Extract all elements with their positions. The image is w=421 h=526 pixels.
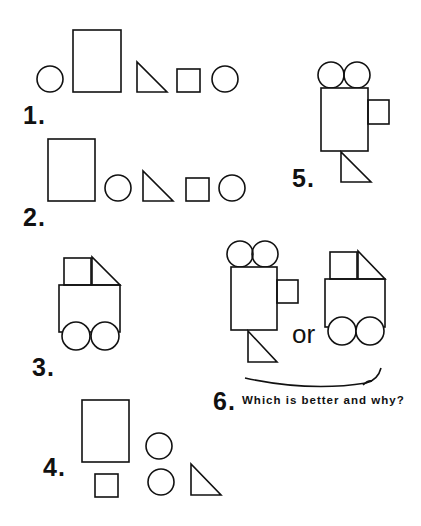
wheel-circle-shape	[62, 322, 90, 350]
question-text: Which is better and why?	[242, 395, 405, 407]
circle-shape	[219, 175, 245, 201]
circle-shape	[37, 66, 63, 92]
side-square-shape	[368, 100, 389, 124]
or-text: or	[292, 321, 315, 347]
figure-2	[48, 139, 245, 201]
body-rectangle-shape	[231, 267, 277, 330]
reel-circle-shape	[252, 241, 278, 267]
wheel-circle-shape	[356, 317, 384, 345]
reel-circle-shape	[227, 241, 253, 267]
cab-triangle-shape	[358, 251, 385, 279]
cab-triangle-shape	[92, 257, 120, 285]
circle-shape	[146, 433, 172, 459]
reel-circle-shape	[318, 62, 344, 88]
figure-label-4: 4.	[43, 455, 66, 480]
triangle-shape	[137, 62, 167, 92]
square-shape	[95, 474, 118, 497]
body-rectangle-shape	[321, 88, 368, 151]
figure-label-6: 6.	[213, 389, 236, 414]
side-square-shape	[277, 280, 298, 303]
figure-label-2: 2.	[23, 205, 46, 230]
wheel-circle-shape	[91, 322, 119, 350]
figure-6-vehicle	[325, 251, 385, 345]
wheel-circle-shape	[328, 317, 356, 345]
rectangle-shape	[82, 400, 129, 462]
figure-4	[82, 400, 221, 497]
figure-label-1: 1.	[23, 103, 46, 128]
stand-triangle-shape	[341, 152, 371, 182]
figure-6-camera	[227, 241, 298, 362]
circle-shape	[148, 469, 174, 495]
figure-label-5: 5.	[292, 166, 315, 191]
triangle-shape	[143, 171, 173, 201]
figure-5-camera	[318, 62, 389, 182]
shapes-canvas	[0, 0, 421, 526]
figure-label-3: 3.	[32, 355, 55, 380]
rectangle-shape	[48, 139, 95, 201]
bracket-arc	[245, 368, 381, 387]
rectangle-shape	[73, 30, 121, 92]
square-shape	[186, 178, 209, 201]
circle-shape	[212, 66, 238, 92]
reel-circle-shape	[344, 62, 370, 88]
stand-triangle-shape	[248, 331, 277, 362]
figure-3-vehicle	[59, 257, 120, 350]
cab-square-shape	[64, 258, 91, 285]
cab-square-shape	[330, 252, 357, 279]
triangle-shape	[191, 464, 221, 495]
figure-1	[37, 30, 238, 92]
square-shape	[177, 69, 200, 92]
circle-shape	[105, 175, 131, 201]
